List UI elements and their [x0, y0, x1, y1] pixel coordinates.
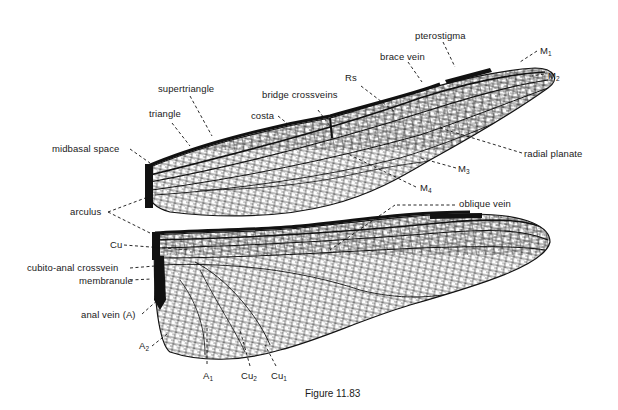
label-cu1: Cu1 [271, 370, 287, 384]
label-rs: Rs [345, 72, 357, 83]
label-supertriangle: supertriangle [158, 83, 214, 94]
label-m3: M3 [458, 163, 470, 177]
hindwing-pterostigma [430, 213, 482, 219]
label-membranule: membranule [79, 275, 133, 286]
label-brace-vein: brace vein [380, 51, 425, 62]
label-a1: A1 [203, 370, 213, 384]
label-costa: costa [251, 110, 274, 121]
hindwing [150, 210, 560, 370]
label-cubito-anal-crossvein: cubito-anal crossvein [27, 262, 118, 273]
label-bridge-crossveins: bridge crossveins [262, 89, 338, 100]
figure-caption: Figure 11.83 [305, 388, 360, 399]
label-radial-planate: radial planate [524, 148, 582, 159]
wing-diagram [0, 0, 618, 410]
label-pterostigma: pterostigma [415, 30, 466, 41]
label-a2: A2 [139, 340, 149, 354]
label-m4: M4 [420, 182, 432, 196]
label-m1: M1 [540, 45, 552, 59]
label-cu: Cu [110, 239, 122, 250]
label-arculus: arculus [70, 206, 101, 217]
label-triangle: triangle [149, 108, 181, 119]
label-cu2: Cu2 [241, 370, 257, 384]
label-oblique-vein: oblique vein [459, 198, 511, 209]
label-m2: M2 [548, 70, 560, 84]
label-anal-vein: anal vein (A) [81, 309, 136, 320]
label-midbasal-space: midbasal space [52, 143, 119, 154]
